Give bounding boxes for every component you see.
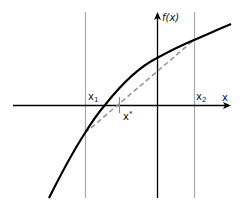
- x1-label: x1: [88, 91, 98, 104]
- x-axis-label: x: [222, 92, 228, 103]
- xstar-label: x*: [123, 110, 133, 122]
- diagram-svg: f(x) x x1 x2 x*: [0, 0, 242, 207]
- diagram-canvas: f(x) x x1 x2 x*: [0, 0, 242, 207]
- function-curve: [49, 24, 231, 198]
- secant-line: [85, 40, 194, 133]
- x2-label: x2: [196, 91, 206, 104]
- y-axis-label: f(x): [162, 12, 179, 23]
